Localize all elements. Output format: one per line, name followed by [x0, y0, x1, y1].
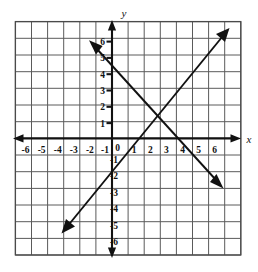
y-axis-label: y	[121, 7, 127, 19]
y-tick-label: -2	[110, 171, 118, 181]
y-tick-label: -6	[110, 237, 118, 247]
ascending-line-upper-arrowhead	[216, 28, 230, 42]
x-axis-left-arrowhead	[13, 134, 24, 142]
x-tick-label: 5	[196, 145, 201, 155]
x-tick-label: 3	[164, 145, 169, 155]
y-tick-label: -4	[110, 204, 118, 214]
y-tick-label: 5	[100, 53, 105, 63]
y-axis-bottom-arrowhead	[108, 248, 116, 259]
origin-label: 0	[115, 143, 120, 153]
x-tick-label: -5	[38, 145, 46, 155]
ascending-line	[62, 28, 230, 234]
descending-line	[89, 40, 224, 188]
x-tick-label: 1	[132, 145, 137, 155]
x-tick-label: 4	[180, 145, 185, 155]
y-tick-label: -1	[110, 155, 118, 165]
y-tick-label: 2	[100, 102, 105, 112]
x-axis-label: x	[246, 133, 252, 145]
y-tick-label: -5	[110, 221, 118, 231]
y-tick-label: 6	[100, 37, 105, 47]
y-tick-label: 3	[100, 86, 105, 96]
x-axis-right-arrowhead	[231, 134, 242, 142]
coordinate-plane-svg: -6 -5 -4 -3 -2 -1 0 1 2 3 4 5 6 6 5 4 3 …	[0, 0, 258, 272]
x-tick-label: -3	[70, 145, 78, 155]
x-tick-label: -1	[101, 145, 109, 155]
x-tick-label: -4	[54, 145, 62, 155]
x-tick-label: -6	[22, 145, 30, 155]
y-tick-label: 1	[100, 119, 105, 129]
y-tick-label: -3	[110, 188, 118, 198]
x-tick-label: 6	[212, 145, 217, 155]
x-tick-label: 2	[148, 145, 153, 155]
x-tick-label: -2	[86, 145, 94, 155]
graph-figure: -6 -5 -4 -3 -2 -1 0 1 2 3 4 5 6 6 5 4 3 …	[0, 0, 258, 272]
y-tick-label: 4	[100, 70, 105, 80]
